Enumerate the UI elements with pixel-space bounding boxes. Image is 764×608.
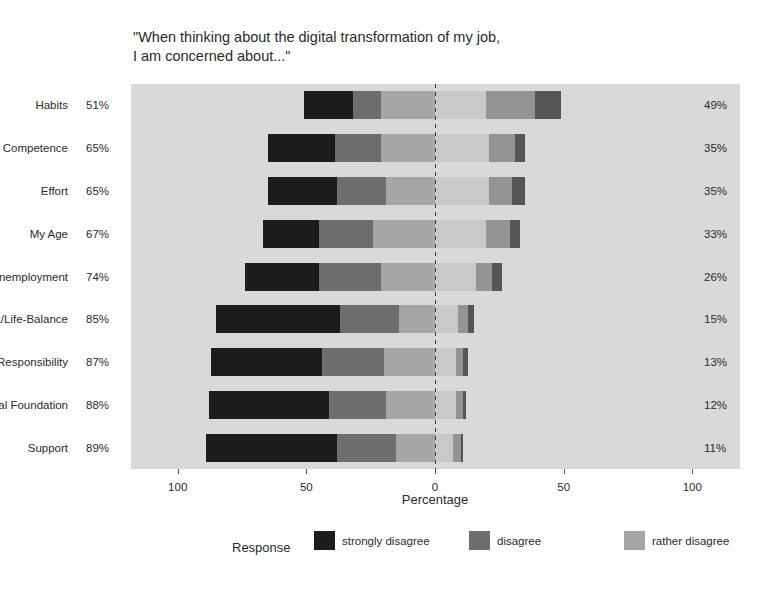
right-total-percent: 12%: [704, 391, 727, 419]
bar-segment: [435, 134, 489, 162]
bar-segment: [386, 177, 435, 205]
bar-segment: [206, 434, 337, 462]
bar-segment: [211, 348, 322, 376]
bar-segment: [468, 305, 473, 333]
bar-segment: [353, 91, 381, 119]
right-total-percent: 33%: [704, 220, 727, 248]
right-total-percent: 15%: [704, 305, 727, 333]
bar-row: [209, 391, 466, 419]
x-axis-title: Percentage: [402, 492, 469, 507]
bar-segment: [396, 434, 435, 462]
x-axis-tick-mark: [435, 469, 436, 474]
zero-reference-line: [435, 84, 436, 469]
bar-segment: [489, 134, 515, 162]
legend-title: Response: [232, 540, 291, 555]
legend-item[interactable]: strongly disagree: [314, 531, 469, 550]
bar-segment: [209, 391, 330, 419]
right-total-percent: 35%: [704, 134, 727, 162]
bar-segment: [456, 348, 464, 376]
bar-segment: [263, 220, 320, 248]
bar-row: [268, 177, 525, 205]
legend-item-label: disagree: [497, 535, 541, 547]
bar-row: [245, 263, 502, 291]
bar-segment: [337, 177, 386, 205]
bar-segment: [535, 91, 561, 119]
x-axis-tick-mark: [692, 469, 693, 474]
bar-row: [206, 434, 463, 462]
bar-segment: [329, 391, 386, 419]
bar-segment: [512, 177, 525, 205]
right-total-percent: 35%: [704, 177, 727, 205]
bar-segment: [435, 348, 456, 376]
bar-segment: [381, 91, 435, 119]
bar-segment: [476, 263, 491, 291]
bar-segment: [435, 177, 489, 205]
bar-segment: [216, 305, 340, 333]
x-axis-tick-label: 50: [557, 481, 570, 493]
bar-segment: [435, 220, 486, 248]
bar-segment: [456, 391, 464, 419]
bar-segment: [268, 134, 335, 162]
legend-swatch-icon: [624, 531, 645, 550]
bar-segment: [373, 220, 435, 248]
bar-segment: [340, 305, 399, 333]
bar-segment: [245, 263, 320, 291]
likert-chart-figure: "When thinking about the digital transfo…: [0, 0, 764, 608]
right-total-percent: 49%: [704, 91, 727, 119]
bar-segment: [384, 348, 435, 376]
legend-item-label: rather disagree: [652, 535, 729, 547]
x-axis-tick-mark: [178, 469, 179, 474]
bar-segment: [463, 391, 466, 419]
bar-segment: [386, 391, 435, 419]
x-axis-tick-mark: [306, 469, 307, 474]
bar-segment: [461, 434, 464, 462]
bar-segment: [319, 220, 373, 248]
bar-segment: [489, 177, 512, 205]
bar-segment: [463, 348, 468, 376]
right-total-percent: 26%: [704, 263, 727, 291]
bar-segment: [435, 91, 486, 119]
legend-item[interactable]: rather disagree: [624, 531, 764, 550]
legend-swatch-icon: [314, 531, 335, 550]
bar-segment: [322, 348, 384, 376]
bar-segment: [268, 177, 337, 205]
legend-item[interactable]: disagree: [469, 531, 624, 550]
bar-segment: [435, 391, 456, 419]
bar-segment: [435, 263, 476, 291]
chart-title: "When thinking about the digital transfo…: [133, 28, 693, 66]
bar-segment: [492, 263, 502, 291]
bar-segment: [435, 434, 453, 462]
bar-segment: [319, 263, 381, 291]
right-percent-labels: 49%35%35%33%26%15%13%12%11%: [690, 84, 764, 469]
x-axis-tick-label: 50: [300, 481, 313, 493]
bar-row: [263, 220, 520, 248]
bar-segment: [381, 134, 435, 162]
bar-segment: [399, 305, 435, 333]
bar-segment: [304, 91, 353, 119]
bar-segment: [381, 263, 435, 291]
bar-segment: [510, 220, 520, 248]
bars-layer: [0, 84, 764, 469]
bar-row: [304, 91, 561, 119]
right-total-percent: 11%: [704, 434, 726, 462]
legend-item-label: strongly disagree: [342, 535, 430, 547]
bar-segment: [458, 305, 468, 333]
x-axis-tick-label: 100: [168, 481, 187, 493]
bar-segment: [435, 305, 458, 333]
bar-row: [268, 134, 525, 162]
legend: Response strongly disagreedisagreerather…: [232, 524, 702, 586]
legend-items: strongly disagreedisagreerather disagree…: [314, 528, 764, 553]
x-axis-tick-label: 100: [683, 481, 702, 493]
legend-swatch-icon: [469, 531, 490, 550]
bar-row: [211, 348, 468, 376]
right-total-percent: 13%: [704, 348, 727, 376]
bar-segment: [486, 220, 509, 248]
bar-segment: [337, 434, 396, 462]
bar-segment: [335, 134, 381, 162]
bar-segment: [453, 434, 461, 462]
x-axis-tick-mark: [564, 469, 565, 474]
x-axis: 10050050100: [0, 469, 764, 509]
bar-segment: [486, 91, 535, 119]
bar-segment: [515, 134, 525, 162]
